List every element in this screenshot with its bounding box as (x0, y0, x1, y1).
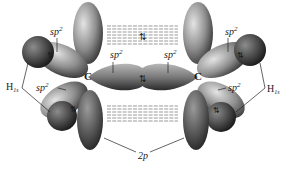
label-h1s-right: H1s (267, 83, 280, 95)
label-h1s-left: H1s (6, 81, 19, 93)
label-sp2-upper-right: sp2 (225, 25, 238, 37)
label-sp2-center-right: sp2 (164, 48, 177, 60)
ch-pair-upper-left: ⇅ (47, 51, 54, 60)
label-sp2-center-left: sp2 (110, 48, 123, 60)
label-sp2-upper-left: sp2 (50, 25, 63, 37)
label-sp2-lower-left: sp2 (36, 81, 49, 93)
ch-pair-upper-right: ⇅ (237, 51, 244, 60)
left-carbon-label: C (84, 70, 92, 82)
pi-overlap-bottom (107, 106, 178, 121)
pi-top-electron-pair: ⇅ (139, 32, 147, 42)
label-2p: 2p (138, 150, 148, 161)
right-p-lobe-lower (183, 90, 209, 150)
hydrogen-lower-right (206, 102, 236, 132)
left-p-lobe-lower (77, 90, 103, 150)
ch-pair-lower-left: ⇅ (70, 105, 77, 114)
sigma-electron-pair: ⇅ (139, 74, 147, 84)
ch-pair-lower-right: ⇅ (213, 106, 220, 115)
label-sp2-lower-right: sp2 (228, 81, 241, 93)
right-carbon-label: C (194, 70, 202, 82)
ethylene-orbital-diagram: ⇅ ⇅ ⇅ ⇅ ⇅ ⇅ C C sp2 sp2 (0, 0, 285, 171)
hydrogen-upper-right (234, 34, 266, 66)
